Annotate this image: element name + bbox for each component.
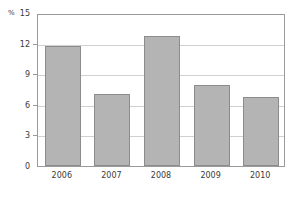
y-tick-label: 12 bbox=[8, 41, 30, 49]
plot-area bbox=[37, 14, 285, 167]
y-tick-label: 3 bbox=[8, 132, 30, 140]
bar-2007 bbox=[94, 94, 130, 166]
x-tick-label: 2008 bbox=[136, 171, 186, 180]
bar-2010 bbox=[243, 97, 279, 166]
bar-chart: % 03691215 20062007200820092010 bbox=[0, 0, 299, 198]
y-tick-label: 15 bbox=[8, 10, 30, 18]
y-tick-label: 9 bbox=[8, 71, 30, 79]
x-tick-label: 2010 bbox=[235, 171, 285, 180]
y-tick-label: 6 bbox=[8, 102, 30, 110]
x-tick-label: 2006 bbox=[37, 171, 87, 180]
y-tick-label: 0 bbox=[8, 163, 30, 171]
bar-2006 bbox=[45, 46, 81, 166]
bar-2009 bbox=[194, 85, 230, 166]
x-tick-label: 2009 bbox=[186, 171, 236, 180]
x-tick-label: 2007 bbox=[86, 171, 136, 180]
bar-2008 bbox=[144, 36, 180, 166]
